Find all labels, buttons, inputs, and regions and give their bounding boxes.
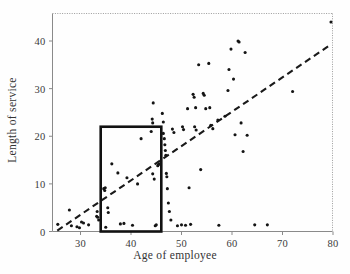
x-tick-label: 40 <box>126 238 137 249</box>
data-points <box>56 20 332 229</box>
plot-canvas <box>0 0 350 274</box>
scatter-plot-figure: 304050607080 010203040 Age of employee L… <box>0 0 350 274</box>
axis-ticks <box>49 41 333 235</box>
x-tick-label: 70 <box>277 238 288 249</box>
trend-line <box>57 46 329 231</box>
x-axis-label: Age of employee <box>0 249 350 261</box>
plot-frame <box>53 14 333 232</box>
highlight-rectangle <box>101 127 162 232</box>
x-tick-label: 30 <box>75 238 86 249</box>
y-axis-label-wrapper: Length of service <box>2 0 22 240</box>
x-tick-label: 50 <box>176 238 187 249</box>
x-tick-label: 60 <box>227 238 238 249</box>
y-axis-label: Length of service <box>6 77 18 163</box>
x-tick-label: 80 <box>328 238 339 249</box>
